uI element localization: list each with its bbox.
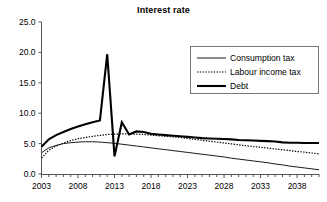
x-tick-label: 2003	[32, 181, 51, 191]
y-tick-label: 5.0	[24, 139, 36, 149]
legend-label-labour-income-tax: Labour income tax	[230, 67, 301, 77]
y-tick-label: 20.0	[19, 47, 36, 57]
legend-label-debt: Debt	[230, 81, 249, 91]
x-tick-label: 2018	[142, 181, 161, 191]
series-line-consumption-tax	[42, 142, 320, 170]
y-tick-label: 15.0	[19, 78, 36, 88]
x-tick-label: 2023	[178, 181, 197, 191]
y-tick-label: 0.0	[24, 169, 36, 179]
y-tick-label: 25.0	[19, 17, 36, 27]
legend-label-consumption-tax: Consumption tax	[230, 53, 295, 63]
interest-rate-line-chart: 0.05.010.015.020.025.0 20032008201320182…	[0, 0, 327, 202]
x-tick-label: 2008	[69, 181, 88, 191]
x-tick-label: 2028	[215, 181, 234, 191]
chart-legend: Consumption taxLabour income taxDebt	[191, 47, 319, 94]
x-tick-label: 2033	[251, 181, 270, 191]
y-tick-label: 10.0	[19, 108, 36, 118]
x-tick-label: 2013	[105, 181, 124, 191]
y-axis-tick-labels: 0.05.010.015.020.025.0	[19, 17, 36, 179]
x-axis-tick-labels: 20032008201320182023202820332038	[32, 181, 307, 191]
x-tick-label: 2038	[288, 181, 307, 191]
chart-figure: Interest rate 0.05.010.015.020.025.0 200…	[0, 0, 327, 202]
series-line-labour-income-tax	[42, 134, 320, 158]
